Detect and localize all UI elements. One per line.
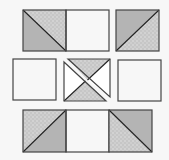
bottom-right-hst [109, 110, 152, 152]
middle-right-white-square [118, 60, 161, 101]
bottom-left-hst [23, 110, 66, 152]
bottom-middle-white-square [66, 110, 109, 152]
quilt-assembly-diagram [0, 0, 169, 160]
top-row [23, 10, 159, 51]
top-right-hst [116, 10, 159, 51]
top-middle-white-square [66, 10, 109, 51]
bottom-row [23, 110, 152, 152]
center-qst-split [64, 59, 110, 101]
middle-row [13, 59, 161, 101]
top-left-hst [23, 10, 66, 51]
middle-left-white-square [13, 59, 56, 100]
white-square [66, 10, 109, 51]
